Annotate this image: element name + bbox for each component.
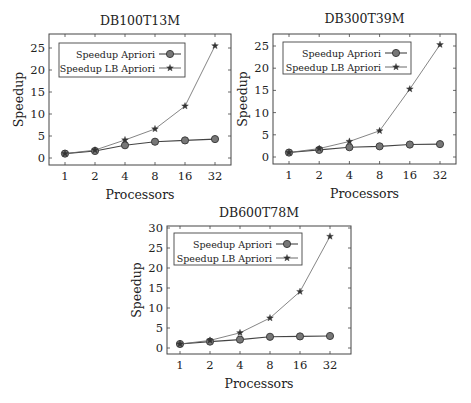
legend-entry-label: Speedup Apriori bbox=[193, 239, 272, 250]
x-tick-label: 1 bbox=[285, 168, 292, 182]
star-marker-icon bbox=[237, 329, 244, 336]
chart-db600t78m: DB600T78M05101520253012481632ProcessorsS… bbox=[129, 205, 351, 391]
x-tick-label: 32 bbox=[208, 169, 223, 183]
x-tick-label: 2 bbox=[316, 168, 323, 182]
y-tick-label: 5 bbox=[38, 129, 45, 143]
x-axis-label: Processors bbox=[330, 186, 399, 201]
star-marker-icon bbox=[152, 125, 159, 132]
legend-entry-label: Speedup Apriori bbox=[302, 48, 381, 59]
y-tick-label: 20 bbox=[30, 63, 45, 77]
y-tick-label: 15 bbox=[254, 83, 269, 97]
circle-marker-icon bbox=[346, 144, 353, 151]
x-tick-label: 4 bbox=[121, 169, 128, 183]
legend: Speedup AprioriSpeedup LB Apriori bbox=[283, 42, 411, 74]
x-tick-label: 1 bbox=[61, 169, 68, 183]
y-axis-label: Speedup bbox=[129, 262, 144, 317]
y-tick-label: 20 bbox=[254, 61, 269, 75]
x-axis-label: Processors bbox=[224, 376, 293, 391]
y-tick-label: 10 bbox=[254, 106, 269, 120]
y-axis-label: Speedup bbox=[11, 72, 26, 127]
y-tick-label: 25 bbox=[254, 39, 269, 53]
circle-marker-icon bbox=[283, 240, 290, 247]
legend-entry-label: Speedup LB Apriori bbox=[286, 62, 381, 73]
chart-title: DB300T39M bbox=[324, 11, 404, 26]
y-tick-label: 25 bbox=[30, 41, 45, 55]
y-tick-label: 0 bbox=[156, 341, 163, 355]
y-tick-label: 0 bbox=[262, 150, 269, 164]
star-marker-icon bbox=[406, 85, 413, 92]
y-tick-label: 15 bbox=[148, 281, 163, 295]
y-tick-label: 10 bbox=[30, 107, 45, 121]
chart-title: DB600T78M bbox=[219, 205, 299, 220]
circle-marker-icon bbox=[121, 142, 128, 149]
y-tick-label: 25 bbox=[148, 241, 163, 255]
figure-canvas: DB100T13M051015202512481632ProcessorsSpe… bbox=[0, 0, 471, 403]
circle-marker-icon bbox=[181, 137, 188, 144]
x-axis-label: Processors bbox=[105, 187, 174, 202]
y-tick-label: 10 bbox=[148, 301, 163, 315]
y-tick-label: 20 bbox=[148, 261, 163, 275]
circle-marker-icon bbox=[151, 138, 158, 145]
circle-marker-icon bbox=[436, 141, 443, 148]
star-marker-icon bbox=[437, 41, 444, 48]
x-tick-label: 16 bbox=[293, 358, 308, 372]
series-speedup-apriori bbox=[176, 332, 333, 347]
x-tick-label: 2 bbox=[91, 169, 98, 183]
x-tick-label: 8 bbox=[266, 358, 273, 372]
star-marker-icon bbox=[376, 127, 383, 134]
circle-marker-icon bbox=[211, 135, 218, 142]
star-marker-icon bbox=[212, 42, 219, 49]
circle-marker-icon bbox=[236, 336, 243, 343]
legend: Speedup AprioriSpeedup LB Apriori bbox=[59, 43, 185, 77]
legend: Speedup AprioriSpeedup LB Apriori bbox=[174, 233, 302, 265]
chart-db100t13m: DB100T13M051015202512481632ProcessorsSpe… bbox=[11, 13, 231, 202]
legend-entry-label: Speedup LB Apriori bbox=[177, 253, 272, 264]
circle-marker-icon bbox=[392, 49, 399, 56]
x-tick-label: 4 bbox=[346, 168, 353, 182]
chart-db300t39m: DB300T39M051015202512481632ProcessorsSpe… bbox=[235, 11, 456, 201]
x-tick-label: 16 bbox=[402, 168, 417, 182]
x-tick-label: 2 bbox=[206, 358, 213, 372]
y-axis-label: Speedup bbox=[235, 71, 250, 126]
series-speedup-apriori bbox=[61, 135, 218, 157]
chart-title: DB100T13M bbox=[100, 13, 180, 28]
star-marker-icon bbox=[327, 233, 334, 240]
circle-marker-icon bbox=[326, 332, 333, 339]
x-tick-label: 4 bbox=[236, 358, 243, 372]
y-tick-label: 5 bbox=[262, 128, 269, 142]
y-tick-label: 15 bbox=[30, 85, 45, 99]
circle-marker-icon bbox=[376, 143, 383, 150]
x-tick-label: 8 bbox=[151, 169, 158, 183]
series-speedup-apriori bbox=[285, 141, 443, 157]
x-tick-label: 32 bbox=[323, 358, 338, 372]
x-tick-label: 32 bbox=[433, 168, 448, 182]
y-tick-label: 30 bbox=[148, 221, 163, 235]
y-tick-label: 0 bbox=[38, 151, 45, 165]
x-tick-label: 8 bbox=[376, 168, 383, 182]
circle-marker-icon bbox=[166, 50, 173, 57]
circle-marker-icon bbox=[406, 141, 413, 148]
circle-marker-icon bbox=[296, 333, 303, 340]
legend-entry-label: Speedup LB Apriori bbox=[60, 63, 155, 74]
x-tick-label: 16 bbox=[178, 169, 193, 183]
circle-marker-icon bbox=[266, 333, 273, 340]
legend-entry-label: Speedup Apriori bbox=[76, 49, 155, 60]
x-tick-label: 1 bbox=[176, 358, 183, 372]
y-tick-label: 5 bbox=[156, 321, 163, 335]
